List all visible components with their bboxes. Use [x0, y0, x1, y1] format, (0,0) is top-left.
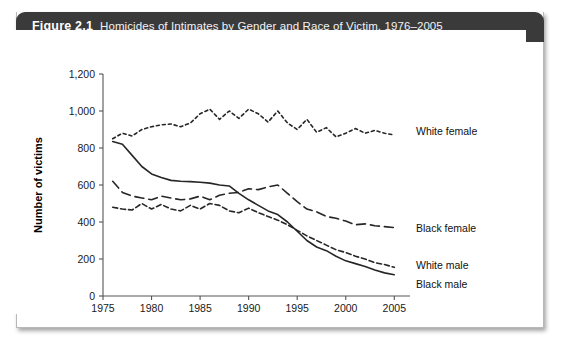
y-tick-label: 800	[77, 142, 95, 154]
series-label-white-male: White male	[416, 259, 469, 271]
y-tick-label: 1,200	[69, 68, 95, 80]
line-chart: 02004006008001,0001,200 1975198019851990…	[0, 30, 526, 314]
chart-plot-area: 02004006008001,0001,200 1975198019851990…	[0, 30, 526, 314]
data-series-group	[113, 109, 395, 275]
y-tick-label: 200	[77, 253, 95, 265]
x-tick-label: 1990	[237, 302, 261, 314]
series-line-black-male	[113, 142, 395, 275]
x-axis-ticks: 1975198019851990199520002005	[91, 296, 406, 314]
x-tick-label: 1975	[91, 302, 115, 314]
x-tick-label: 2005	[383, 302, 407, 314]
series-line-white-female	[113, 109, 395, 139]
series-line-white-male	[113, 204, 395, 268]
x-tick-label: 2000	[334, 302, 358, 314]
y-axis-title: Number of victims	[32, 137, 44, 233]
series-label-black-male: Black male	[416, 278, 468, 290]
x-tick-label: 1980	[140, 302, 164, 314]
series-inline-labels: White femaleBlack femaleWhite maleBlack …	[416, 125, 477, 290]
y-axis-ticks: 02004006008001,0001,200	[69, 68, 103, 302]
y-tick-label: 600	[77, 179, 95, 191]
y-tick-label: 0	[89, 290, 95, 302]
series-label-white-female: White female	[416, 125, 477, 137]
x-tick-label: 1985	[188, 302, 212, 314]
y-tick-label: 400	[77, 216, 95, 228]
y-tick-label: 1,000	[69, 105, 95, 117]
series-line-black-female	[113, 181, 395, 227]
series-label-black-female: Black female	[416, 222, 476, 234]
x-tick-label: 1995	[286, 302, 310, 314]
